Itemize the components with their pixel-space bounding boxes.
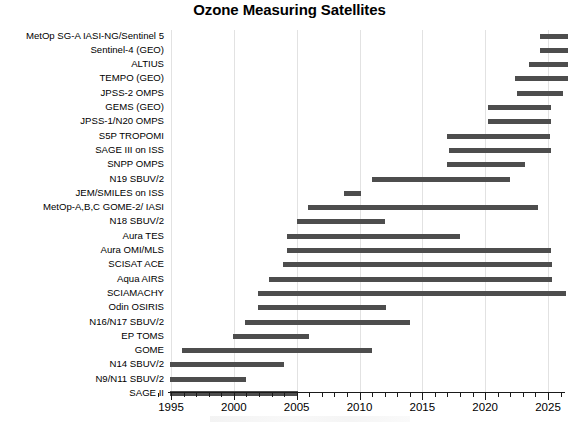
category-label: N19 SBUV/2 bbox=[0, 174, 164, 184]
category-label: N16/N17 SBUV/2 bbox=[0, 317, 164, 327]
x-tick-minor bbox=[535, 393, 536, 397]
gantt-bar bbox=[372, 177, 510, 182]
x-tick-minor bbox=[334, 393, 335, 397]
x-tick-minor bbox=[410, 393, 411, 397]
x-tick-minor bbox=[347, 393, 348, 397]
x-tick-minor bbox=[184, 393, 185, 397]
gantt-bar bbox=[540, 34, 568, 39]
x-tick-minor bbox=[221, 393, 222, 397]
ozone-satellites-gantt-chart: Ozone Measuring Satellites MetOp SG-A IA… bbox=[0, 0, 579, 424]
gantt-bar bbox=[529, 62, 568, 67]
category-label: SNPP OMPS bbox=[0, 159, 164, 169]
category-label: N18 SBUV/2 bbox=[0, 216, 164, 226]
gridline-2015 bbox=[422, 30, 423, 392]
gantt-bar bbox=[540, 48, 568, 53]
gantt-bar bbox=[517, 91, 563, 96]
category-label: SAGE III on ISS bbox=[0, 145, 164, 155]
gantt-bar bbox=[488, 105, 551, 110]
category-label: JEM/SMILES on ISS bbox=[0, 188, 164, 198]
category-label: EP TOMS bbox=[0, 331, 164, 341]
x-tick-minor bbox=[447, 393, 448, 397]
category-label: SCIAMACHY bbox=[0, 288, 164, 298]
gantt-bar bbox=[287, 248, 551, 253]
gantt-bar bbox=[269, 277, 552, 282]
x-tick-label: 2005 bbox=[284, 401, 310, 413]
gantt-bar bbox=[449, 148, 551, 153]
category-label: GEMS (GEO) bbox=[0, 102, 164, 112]
x-tick-minor bbox=[435, 393, 436, 397]
page-footer-artifact bbox=[210, 416, 410, 422]
category-label: Odin OSIRIS bbox=[0, 302, 164, 312]
x-tick-minor bbox=[246, 393, 247, 397]
x-tick-minor bbox=[209, 393, 210, 397]
category-label: SCISAT ACE bbox=[0, 259, 164, 269]
chart-title: Ozone Measuring Satellites bbox=[0, 1, 579, 18]
x-tick-minor bbox=[385, 393, 386, 397]
category-label: MetOp SG-A IASI-NG/Sentinel 5 bbox=[0, 31, 164, 41]
category-label: MetOp-A,B,C GOME-2/ IASI bbox=[0, 202, 164, 212]
x-tick-label: 2025 bbox=[535, 401, 561, 413]
category-axis-labels: MetOp SG-A IASI-NG/Sentinel 5Sentinel-4 … bbox=[0, 30, 164, 392]
x-tick-minor bbox=[284, 393, 285, 397]
category-label: N14 SBUV/2 bbox=[0, 359, 164, 369]
gantt-bar bbox=[297, 219, 385, 224]
category-label: SAGE II bbox=[0, 388, 164, 398]
gantt-bar bbox=[488, 119, 551, 124]
x-tick-major bbox=[171, 393, 172, 400]
x-tick-minor bbox=[523, 393, 524, 397]
x-tick-label: 2000 bbox=[221, 401, 247, 413]
x-tick-minor bbox=[510, 393, 511, 397]
x-tick-minor bbox=[372, 393, 373, 397]
x-tick-minor bbox=[309, 393, 310, 397]
x-tick-minor bbox=[473, 393, 474, 397]
x-tick-major bbox=[234, 393, 235, 400]
x-tick-major bbox=[422, 393, 423, 400]
x-tick-major bbox=[548, 393, 549, 400]
category-label: TEMPO (GEO) bbox=[0, 73, 164, 83]
gantt-bar bbox=[233, 334, 310, 339]
gantt-bar bbox=[258, 291, 566, 296]
category-label: ALTIUS bbox=[0, 59, 164, 69]
category-label: GOME bbox=[0, 345, 164, 355]
gantt-bar bbox=[515, 76, 568, 81]
gantt-bar bbox=[170, 377, 247, 382]
gantt-bar bbox=[344, 191, 360, 196]
x-tick-major bbox=[297, 393, 298, 400]
gantt-bar bbox=[170, 362, 284, 367]
x-tick-minor bbox=[498, 393, 499, 397]
x-tick-minor bbox=[272, 393, 273, 397]
gantt-bar bbox=[245, 320, 410, 325]
category-label: S5P TROPOMI bbox=[0, 131, 164, 141]
x-tick-major bbox=[485, 393, 486, 400]
x-tick-minor bbox=[460, 393, 461, 397]
x-tick-label: 2015 bbox=[410, 401, 436, 413]
x-tick-minor bbox=[259, 393, 260, 397]
plot-area bbox=[168, 30, 565, 392]
gridline-1995 bbox=[171, 30, 172, 392]
category-label: Aura TES bbox=[0, 231, 164, 241]
x-tick-minor bbox=[322, 393, 323, 397]
x-tick-label: 2020 bbox=[472, 401, 498, 413]
x-tick-minor bbox=[196, 393, 197, 397]
x-tick-minor bbox=[158, 393, 159, 397]
x-tick-major bbox=[360, 393, 361, 400]
x-tick-minor bbox=[397, 393, 398, 397]
category-label: JPSS-2 OMPS bbox=[0, 88, 164, 98]
gantt-bar bbox=[287, 234, 460, 239]
gantt-bar bbox=[182, 348, 372, 353]
x-tick-minor bbox=[561, 393, 562, 397]
category-label: Aqua AIRS bbox=[0, 274, 164, 284]
gantt-bar bbox=[283, 262, 552, 267]
gantt-bar bbox=[447, 162, 525, 167]
category-label: Aura OMI/MLS bbox=[0, 245, 164, 255]
gantt-bar bbox=[258, 305, 386, 310]
gridline-2010 bbox=[360, 30, 361, 392]
x-tick-label: 1995 bbox=[158, 401, 184, 413]
gantt-bar bbox=[308, 205, 538, 210]
category-label: N9/N11 SBUV/2 bbox=[0, 374, 164, 384]
x-axis-line bbox=[168, 392, 565, 393]
gridline-2020 bbox=[485, 30, 486, 392]
category-label: Sentinel-4 (GEO) bbox=[0, 45, 164, 55]
x-tick-label: 2010 bbox=[347, 401, 373, 413]
gantt-bar bbox=[447, 134, 550, 139]
